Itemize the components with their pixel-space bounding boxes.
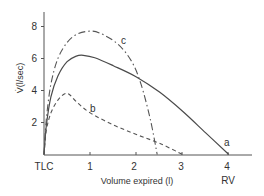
x-tick-label-1: 1 xyxy=(87,161,93,172)
flow-volume-chart: 2 4 6 8 TLC 1 2 3 4 RV Volume expired (l… xyxy=(0,0,264,196)
y-axis-title: V̇(l/sec) xyxy=(15,63,25,94)
curve-label-a: a xyxy=(224,137,230,148)
curve-label-c: c xyxy=(121,35,126,46)
curve-label-b: b xyxy=(90,103,96,114)
x-tick-label-2: 2 xyxy=(131,161,137,172)
x-tick-label-tlc: TLC xyxy=(35,161,54,172)
y-tick-label-2: 2 xyxy=(31,117,37,128)
x-tick-label-3: 3 xyxy=(178,161,184,172)
y-tick-label-8: 8 xyxy=(31,21,37,32)
x-axis-title: Volume expired (l) xyxy=(101,176,174,186)
x-sublabel-rv: RV xyxy=(221,175,235,186)
curve-b xyxy=(44,93,183,154)
x-tick-label-4: 4 xyxy=(224,161,230,172)
y-tick-label-6: 6 xyxy=(31,53,37,64)
y-tick-label-4: 4 xyxy=(31,85,37,96)
